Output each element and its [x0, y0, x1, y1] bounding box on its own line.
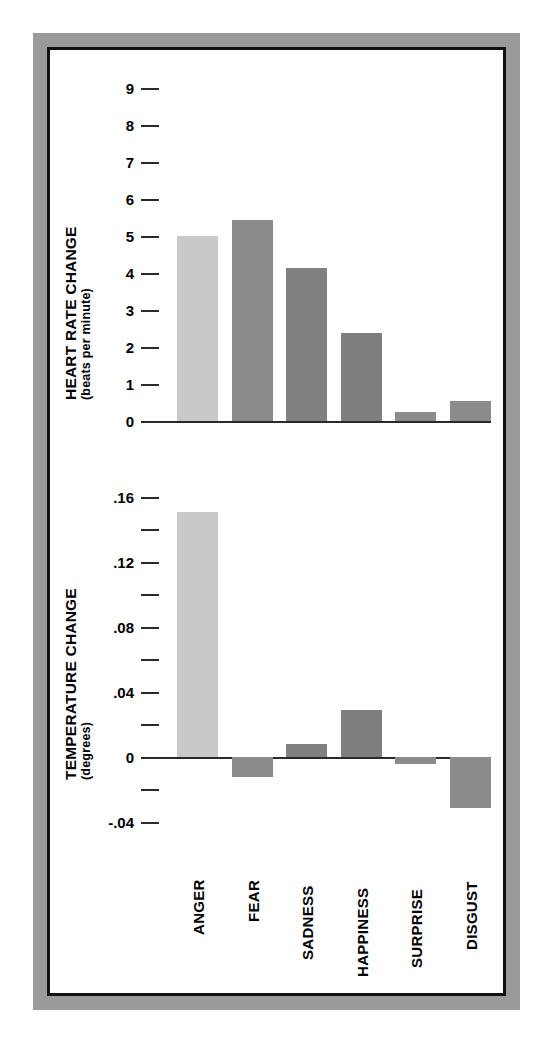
category-label-happiness: HAPPINESS	[354, 888, 371, 977]
bottom-panel-y-axis-title-units: (degrees)	[79, 588, 94, 780]
top-bar-fear	[232, 220, 273, 421]
top-bar-happiness	[341, 333, 382, 421]
bottom-panel-y-axis-title: TEMPERATURE CHANGE (degrees)	[62, 588, 94, 780]
bottom-tick-mark-002	[141, 724, 159, 726]
bottom-tick-mark-006	[141, 659, 159, 661]
top-tick-mark-9	[141, 88, 159, 90]
top-tick-label-7: 7	[112, 155, 134, 170]
top-tick-mark-5	[141, 236, 159, 238]
bottom-panel-y-axis-title-main: TEMPERATURE CHANGE	[62, 588, 79, 780]
bottom-tick-mark-016	[141, 497, 159, 499]
top-tick-mark-0	[141, 421, 159, 423]
top-tick-label-6: 6	[112, 192, 134, 207]
top-panel-y-axis-title: HEART RATE CHANGE (beats per minute)	[62, 226, 94, 400]
top-bar-anger	[177, 236, 218, 421]
top-tick-mark-8	[141, 125, 159, 127]
top-panel-y-axis-title-main: HEART RATE CHANGE	[62, 226, 79, 400]
top-tick-label-4: 4	[112, 266, 134, 281]
category-label-disgust: DISGUST	[463, 881, 480, 950]
bottom-bar-happiness	[341, 710, 382, 757]
bottom-bar-surprise	[395, 757, 436, 764]
bottom-bar-anger	[177, 512, 218, 757]
bottom-bar-fear	[232, 757, 273, 777]
bottom-tick-label-016: .16	[95, 490, 134, 505]
bottom-tick-mark-0	[141, 757, 159, 759]
bottom-panel-zero-line	[159, 757, 491, 759]
top-tick-label-3: 3	[112, 303, 134, 318]
top-tick-mark-2	[141, 347, 159, 349]
emotion-physiology-figure: HEART RATE CHANGE (beats per minute) 9 8…	[0, 0, 552, 1044]
top-bar-sadness	[286, 268, 327, 421]
bottom-tick-label-004: .04	[95, 685, 134, 700]
bottom-tick-label-008: .08	[95, 620, 134, 635]
top-tick-label-2: 2	[112, 340, 134, 355]
top-bar-surprise	[395, 412, 436, 421]
category-label-surprise: SURPRISE	[408, 889, 425, 968]
category-label-sadness: SADNESS	[299, 885, 316, 960]
bottom-tick-label-012: .12	[95, 555, 134, 570]
bottom-bar-disgust	[450, 757, 491, 808]
top-tick-label-1: 1	[112, 377, 134, 392]
bottom-tick-mark-008	[141, 627, 159, 629]
bottom-bar-sadness	[286, 744, 327, 757]
top-tick-label-0: 0	[112, 414, 134, 429]
top-tick-mark-7	[141, 162, 159, 164]
category-label-anger: ANGER	[190, 879, 207, 935]
top-tick-mark-1	[141, 384, 159, 386]
bottom-tick-mark-010	[141, 594, 159, 596]
bottom-tick-mark-014	[141, 529, 159, 531]
top-tick-mark-3	[141, 310, 159, 312]
bottom-tick-label-neg004: -.04	[87, 815, 134, 830]
bottom-tick-mark-012	[141, 562, 159, 564]
bottom-tick-mark-004	[141, 692, 159, 694]
top-panel-y-axis-title-units: (beats per minute)	[79, 226, 94, 400]
bottom-tick-label-0: 0	[95, 750, 134, 765]
bottom-tick-mark-neg004	[141, 822, 159, 824]
category-label-fear: FEAR	[245, 880, 262, 922]
top-tick-mark-4	[141, 273, 159, 275]
top-tick-label-5: 5	[112, 229, 134, 244]
top-panel-baseline	[159, 421, 491, 423]
top-tick-label-8: 8	[112, 118, 134, 133]
top-bar-disgust	[450, 401, 491, 421]
top-tick-label-9: 9	[112, 81, 134, 96]
bottom-tick-mark-neg002	[141, 789, 159, 791]
top-tick-mark-6	[141, 199, 159, 201]
